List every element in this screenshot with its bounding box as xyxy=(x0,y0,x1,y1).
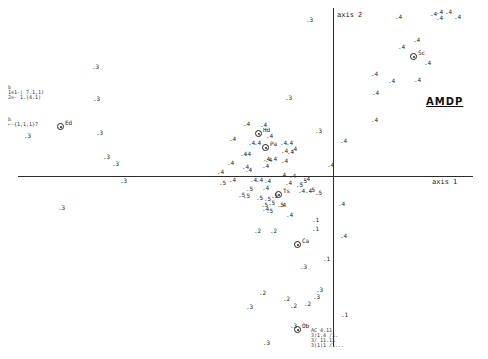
circled-point-marker xyxy=(57,123,64,130)
data-point: .4 xyxy=(243,121,250,127)
data-point: .5 xyxy=(300,178,307,184)
data-point: .4 xyxy=(270,156,277,162)
data-point: .3 xyxy=(24,133,31,139)
data-point: .5 xyxy=(308,187,315,193)
handwritten-note: b ←-{1,1,1}7 xyxy=(8,117,38,127)
data-point: .4 xyxy=(327,162,334,168)
data-point: .2 xyxy=(290,303,297,309)
data-point: .4 xyxy=(229,177,236,183)
data-point: .4 xyxy=(395,14,402,20)
data-point: .4 xyxy=(254,140,261,146)
data-point: .5 xyxy=(315,190,322,196)
data-point: .3 xyxy=(313,294,320,300)
circled-point-marker xyxy=(410,53,417,60)
circled-point-marker xyxy=(255,130,262,137)
data-point: .3 xyxy=(306,17,313,23)
data-point: .1 xyxy=(341,312,348,318)
circled-point-label: Ca xyxy=(302,238,309,244)
data-point: .5 xyxy=(219,180,226,186)
data-point: .4 xyxy=(262,185,269,191)
data-point: .4 xyxy=(340,233,347,239)
data-point: .3 xyxy=(112,161,119,167)
handwritten-note: AC 4.11 3)1.4 /1. 3/ 11.11 3(1)1 /1... xyxy=(311,328,344,348)
data-point: .4 xyxy=(388,78,395,84)
data-point: .4 xyxy=(286,212,293,218)
data-point: .3 xyxy=(103,154,110,160)
data-point: .4 xyxy=(454,14,461,20)
data-point: .4 xyxy=(372,90,379,96)
data-point: .3 xyxy=(93,96,100,102)
data-point: .1 xyxy=(312,217,319,223)
handwritten-note: b 1=1-( 7.1,1) 2=- 1.(4.1) xyxy=(8,85,44,100)
data-point: .4 xyxy=(340,138,347,144)
data-point: .4 xyxy=(244,151,251,157)
data-point: .4 xyxy=(262,163,269,169)
data-point: .4 xyxy=(281,158,288,164)
data-point: .2 xyxy=(254,228,261,234)
y-axis-line xyxy=(333,8,334,346)
circled-point-label: Hd xyxy=(263,127,270,133)
data-point: .4 xyxy=(279,172,286,178)
data-point: .3 xyxy=(96,130,103,136)
circled-point-marker xyxy=(294,326,301,333)
data-point: .3 xyxy=(285,95,292,101)
data-point: .3 xyxy=(92,64,99,70)
data-point: .4 xyxy=(424,60,431,66)
data-point: .4 xyxy=(229,136,236,142)
data-point: .5 xyxy=(243,193,250,199)
data-point: .4 xyxy=(256,177,263,183)
circled-point-label: Ts xyxy=(283,188,290,194)
data-point: .3 xyxy=(120,178,127,184)
data-point: .4 xyxy=(414,77,421,83)
data-point: .2 xyxy=(270,228,277,234)
data-point: .2 xyxy=(259,290,266,296)
data-point: .4 xyxy=(285,180,292,186)
data-point: .4 xyxy=(338,201,345,207)
chart-title: AMDP xyxy=(426,96,463,107)
data-point: .1 xyxy=(312,226,319,232)
data-point: .4 xyxy=(245,167,252,173)
data-point: .4 xyxy=(445,9,452,15)
data-point: .4 xyxy=(266,133,273,139)
data-point: .3 xyxy=(315,128,322,134)
circled-point-marker xyxy=(275,191,282,198)
data-point: .4 xyxy=(413,37,420,43)
scatter-plot: axis 2 axis 1 AMDP .3.3.3.3.3.3.3.3.3.3.… xyxy=(0,0,488,359)
data-point: .5 xyxy=(277,202,284,208)
data-point: .4 xyxy=(371,117,378,123)
x-axis-line xyxy=(18,176,473,177)
data-point: .4 xyxy=(263,156,270,162)
data-point: .4 xyxy=(217,169,224,175)
data-point: .4 xyxy=(436,15,443,21)
data-point: .2 xyxy=(304,301,311,307)
circled-point-label: Ob xyxy=(302,323,309,329)
circled-point-label: Ed xyxy=(65,120,72,126)
y-axis-label: axis 2 xyxy=(337,11,362,19)
data-point: .4 xyxy=(398,44,405,50)
circled-point-marker xyxy=(262,144,269,151)
data-point: .3 xyxy=(263,340,270,346)
data-point: .3 xyxy=(246,304,253,310)
data-point: .5 xyxy=(266,208,273,214)
data-point: .4 xyxy=(287,149,294,155)
x-axis-label: axis 1 xyxy=(432,178,457,186)
circled-point-label: Pa xyxy=(270,141,277,147)
data-point: .3 xyxy=(58,205,65,211)
data-point: .4 xyxy=(227,160,234,166)
data-point: .4 xyxy=(371,71,378,77)
circled-point-label: Sc xyxy=(418,50,425,56)
circled-point-marker xyxy=(294,241,301,248)
data-point: .3 xyxy=(300,264,307,270)
data-point: .1 xyxy=(323,256,330,262)
